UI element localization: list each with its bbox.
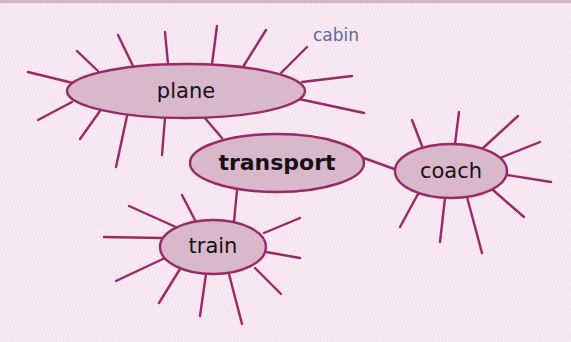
- node-train[interactable]: train: [160, 220, 266, 274]
- node-transport[interactable]: transport: [190, 134, 364, 192]
- coach-label: coach: [420, 159, 482, 183]
- diagram-svg: plane transport coach train cabin: [0, 0, 571, 342]
- transport-label: transport: [218, 150, 336, 175]
- edge-transport-plane: [204, 117, 222, 138]
- node-coach[interactable]: coach: [395, 144, 507, 198]
- edge-transport-train: [234, 190, 237, 222]
- plane-label: plane: [157, 79, 215, 103]
- spider-diagram-canvas: plane transport coach train cabin: [0, 0, 571, 342]
- train-label: train: [189, 234, 238, 258]
- node-plane[interactable]: plane: [67, 64, 305, 118]
- cabin-annotation: cabin: [313, 25, 359, 45]
- edge-transport-coach: [361, 157, 397, 170]
